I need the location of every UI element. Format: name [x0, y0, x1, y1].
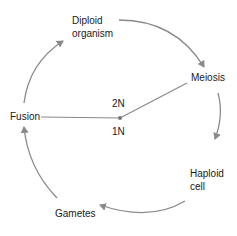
label-2n: 2N [112, 97, 125, 110]
label-meiosis: Meiosis [191, 71, 225, 84]
arrow-meiosis-to-haploid [215, 93, 220, 139]
arrow-fusion-to-diploid [24, 41, 63, 103]
center-point [118, 116, 122, 120]
meiosis-text: Meiosis [191, 71, 225, 84]
fusion-radius-line [41, 117, 120, 118]
meiosis-radius-line [120, 83, 187, 118]
label-gametes: Gametes [55, 207, 96, 220]
fusion-text: Fusion [10, 110, 40, 123]
diploid-line2: organism [72, 27, 113, 40]
haploid-line1: Haploid [190, 167, 224, 180]
label-haploid-cell: Haploid cell [190, 167, 224, 193]
label-1n: 1N [112, 125, 125, 138]
arrow-gametes-to-fusion [24, 127, 57, 198]
label-fusion: Fusion [10, 110, 40, 123]
arrow-haploid-to-gametes [100, 201, 185, 213]
diploid-line1: Diploid [72, 14, 113, 27]
arrow-diploid-to-meiosis [119, 20, 204, 67]
gametes-text: Gametes [55, 207, 96, 220]
label-diploid-organism: Diploid organism [72, 14, 113, 40]
haploid-line2: cell [190, 180, 224, 193]
